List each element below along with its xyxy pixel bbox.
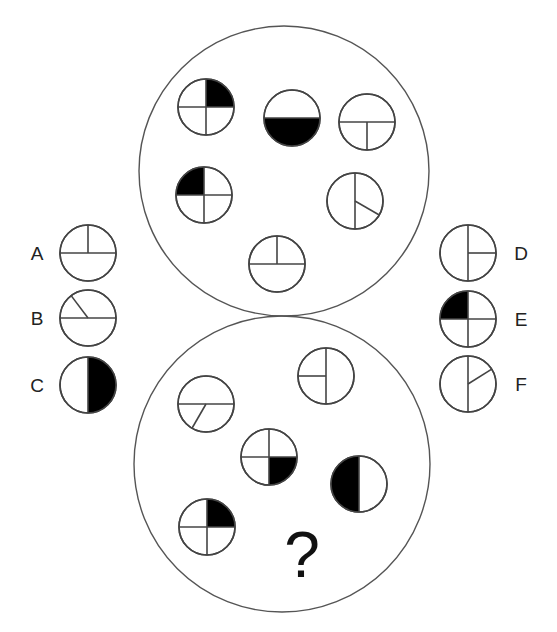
bottom-figure-2 xyxy=(298,348,354,404)
option-d[interactable] xyxy=(440,225,496,281)
option-e[interactable] xyxy=(440,291,496,347)
bottom-figure-4 xyxy=(331,456,387,512)
answer-options-left: ABC xyxy=(30,225,116,413)
filled-segment xyxy=(88,357,116,413)
option-label-b[interactable]: B xyxy=(31,308,44,329)
option-a[interactable] xyxy=(60,225,116,281)
bottom-circle-figures xyxy=(178,348,387,555)
filled-segment xyxy=(331,456,359,512)
top-figure-5 xyxy=(327,173,383,229)
question-mark: ? xyxy=(284,519,320,591)
top-figure-1 xyxy=(178,79,234,135)
top-figure-3 xyxy=(339,94,395,150)
option-label-e[interactable]: E xyxy=(515,309,528,330)
top-figure-4 xyxy=(176,167,232,223)
top-figure-2 xyxy=(264,90,320,146)
top-circle-figures xyxy=(176,79,395,292)
option-c[interactable] xyxy=(60,357,116,413)
bottom-figure-5 xyxy=(179,499,235,555)
bottom-figure-3 xyxy=(241,429,297,485)
option-label-c[interactable]: C xyxy=(30,375,44,396)
top-figure-6 xyxy=(249,236,305,292)
filled-segment xyxy=(264,118,320,146)
bottom-figure-1 xyxy=(178,376,234,432)
puzzle-canvas: ABC DEF ? xyxy=(0,0,557,632)
option-label-a[interactable]: A xyxy=(31,243,44,264)
option-b[interactable] xyxy=(60,290,116,346)
option-label-d[interactable]: D xyxy=(514,243,528,264)
option-f[interactable] xyxy=(440,356,496,412)
answer-options-right: DEF xyxy=(440,225,528,412)
option-label-f[interactable]: F xyxy=(515,374,527,395)
